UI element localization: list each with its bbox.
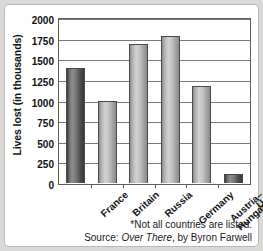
chart-card: Lives lost (in thousands) 20001750150012…: [4, 4, 259, 247]
x-axis-label: Britain: [130, 189, 161, 218]
x-axis-label-line: Russia: [162, 189, 194, 219]
bar-slot: [186, 20, 218, 183]
source-title: Over There: [121, 232, 172, 243]
bar-u-s-[interactable]: [224, 174, 243, 183]
x-axis-label: France: [98, 189, 130, 219]
bars-group: [60, 20, 249, 183]
bar-russia[interactable]: [129, 44, 148, 183]
bar-slot: [123, 20, 155, 183]
plot-area: 200017501500125010007505002500: [58, 18, 251, 185]
bar-slot: [218, 20, 250, 183]
y-tick-label: 750: [10, 118, 54, 129]
bar-austria-hungary[interactable]: [192, 86, 211, 183]
bar-britain[interactable]: [98, 101, 117, 184]
y-tick-label: 500: [10, 138, 54, 149]
y-tick-label: 1000: [10, 97, 54, 108]
bar-france[interactable]: [66, 68, 85, 183]
x-axis-label-line: France: [98, 189, 130, 219]
y-tick-label: 1750: [10, 35, 54, 46]
source-line: Source: Over There, by Byron Farwell: [9, 232, 252, 245]
y-tick-label: 250: [10, 159, 54, 170]
bar-chart-figure: Lives lost (in thousands) 20001750150012…: [0, 0, 263, 251]
bar-germany[interactable]: [161, 36, 180, 183]
bar-slot: [92, 20, 124, 183]
source-suffix: , by Byron Farwell: [172, 232, 252, 243]
chart-notes: *Not all countries are listed. Source: O…: [9, 219, 252, 244]
y-tick-label: 1250: [10, 76, 54, 87]
y-tick-label: 1500: [10, 56, 54, 67]
source-prefix: Source:: [84, 232, 121, 243]
y-tick-label: 2000: [10, 15, 54, 26]
bar-slot: [155, 20, 187, 183]
y-tick-label: 0: [10, 180, 54, 191]
x-axis-label-line: Britain: [130, 189, 161, 218]
bar-slot: [60, 20, 92, 183]
footnote: *Not all countries are listed.: [9, 219, 252, 232]
x-axis-label: Russia: [162, 189, 194, 219]
